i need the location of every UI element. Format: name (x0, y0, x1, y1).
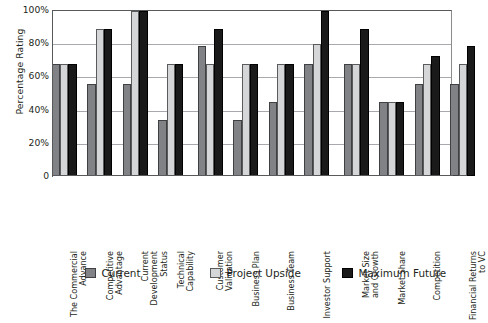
bar (431, 56, 439, 176)
x-axis-tick-labels: The Commercial AdvanceCompetitive Advant… (52, 179, 452, 253)
legend-item-current: Current (85, 267, 141, 279)
bar (68, 64, 76, 176)
bar (352, 64, 360, 176)
bar (459, 64, 467, 176)
bar-group (52, 11, 77, 176)
legend-label-maximum-future: Maximum Future (359, 267, 447, 279)
bar-group (450, 11, 475, 176)
bar (467, 46, 475, 176)
bar (242, 64, 250, 176)
x-axis-label: Financial Returns to VC (469, 251, 488, 323)
bar (139, 11, 147, 176)
bar (321, 11, 329, 176)
bar (388, 102, 396, 176)
bar-group (304, 11, 329, 176)
bar (198, 46, 206, 176)
bar-group (123, 11, 148, 176)
bar (304, 64, 312, 176)
bar-section-venture (198, 11, 329, 176)
bar-group (379, 11, 404, 176)
bar (415, 84, 423, 176)
bar (167, 64, 175, 176)
bar (60, 64, 68, 176)
bar (214, 29, 222, 176)
bar (423, 64, 431, 176)
bar (344, 64, 352, 176)
bar (131, 11, 139, 176)
bar (233, 120, 241, 176)
bar (206, 64, 214, 176)
bar (250, 64, 258, 176)
bar (285, 64, 293, 176)
y-axis-tick-100: 100% (23, 5, 49, 14)
bar (96, 29, 104, 176)
y-axis-tick-0: 0 (43, 171, 49, 180)
current-swatch (85, 268, 96, 279)
bar (277, 64, 285, 176)
bar-group (158, 11, 183, 176)
project-upside-swatch (210, 268, 221, 279)
maximum-future-swatch (342, 268, 353, 279)
bar (313, 44, 321, 176)
y-axis-tick-20: 20% (29, 138, 49, 147)
bar-group (344, 11, 369, 176)
bar (269, 102, 277, 176)
bar-groups (52, 11, 451, 176)
y-axis-line (52, 10, 53, 177)
legend-label-current: Current (102, 267, 141, 279)
bar (360, 29, 368, 176)
bar-group (415, 11, 440, 176)
bar-group (269, 11, 294, 176)
bar (123, 84, 131, 176)
bar-section-commercial (52, 11, 183, 176)
legend-label-project-upside: Project Upside (227, 267, 301, 279)
bar (87, 84, 95, 176)
y-axis-tick-40: 40% (29, 105, 49, 114)
bar-section-market (344, 11, 475, 176)
plot-area (52, 10, 452, 176)
bar (396, 102, 404, 176)
bar (158, 120, 166, 176)
chart-legend: Current Project Upside Maximum Future (52, 262, 452, 284)
y-axis-tick-labels: 020%40%60%80%100% (16, 10, 49, 176)
bar (450, 84, 458, 176)
bar (379, 102, 387, 176)
bar (175, 64, 183, 176)
y-axis-tick-60: 60% (29, 72, 49, 81)
bar (104, 29, 112, 176)
x-axis-line (52, 175, 453, 176)
y-axis-tick-80: 80% (29, 39, 49, 48)
legend-item-project-upside: Project Upside (210, 267, 301, 279)
bar-group (198, 11, 223, 176)
bar-group (87, 11, 112, 176)
legend-item-maximum-future: Maximum Future (342, 267, 446, 279)
bar-group (233, 11, 258, 176)
